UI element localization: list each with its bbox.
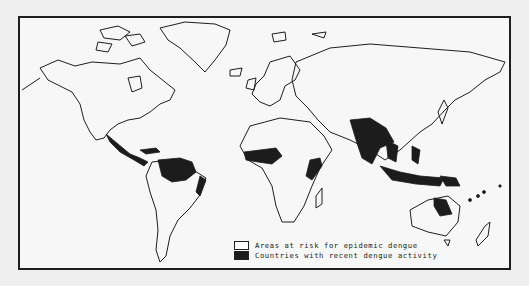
amazon: [158, 158, 196, 182]
north-america: [40, 58, 175, 140]
at-risk-swatch: [234, 241, 249, 250]
brazil-coast: [196, 176, 206, 196]
indonesia: [380, 166, 444, 186]
west-africa: [244, 148, 282, 164]
philippines: [412, 146, 420, 164]
recent-activity-swatch: [234, 251, 249, 260]
legend-item-recent-activity: Countries with recent dengue activity: [234, 250, 437, 260]
caribbean: [140, 148, 160, 154]
legend-label-at-risk: Areas at risk for epidemic dengue: [255, 241, 418, 250]
asia: [292, 44, 505, 160]
europe: [252, 56, 300, 106]
legend-item-at-risk: Areas at risk for epidemic dengue: [234, 240, 437, 250]
recent-dengue-activity: [106, 118, 501, 216]
map-legend: Areas at risk for epidemic dengue Countr…: [234, 240, 437, 260]
legend-label-recent-activity: Countries with recent dengue activity: [255, 251, 437, 260]
papua: [440, 176, 460, 186]
east-africa: [306, 158, 322, 180]
greenland: [160, 22, 230, 72]
ne-australia: [434, 198, 452, 216]
